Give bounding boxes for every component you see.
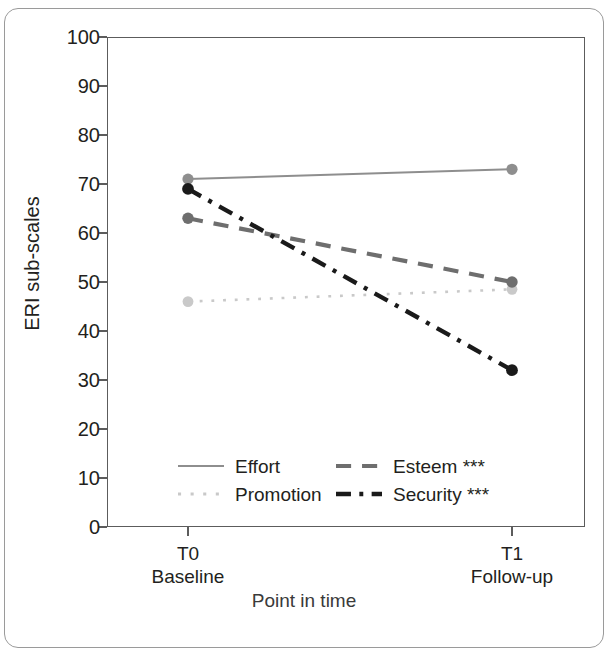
y-tick-mark xyxy=(99,330,107,331)
y-tick-label: 40 xyxy=(54,321,100,341)
y-tick-mark xyxy=(99,281,107,282)
legend-label: Promotion xyxy=(235,485,322,504)
legend-label: Effort xyxy=(235,457,280,476)
y-axis-title: ERI sub-scales xyxy=(21,169,44,359)
y-tick-mark xyxy=(99,428,107,429)
y-tick-mark xyxy=(99,85,107,86)
y-tick-mark xyxy=(99,134,107,135)
y-tick-mark xyxy=(99,183,107,184)
y-tick-mark xyxy=(99,526,107,527)
x-tick-label-sub: Baseline xyxy=(113,565,263,588)
legend-item-esteem: Esteem *** xyxy=(336,452,508,480)
y-tick-mark xyxy=(99,232,107,233)
legend-label: Esteem *** xyxy=(393,457,485,476)
y-tick-label: 20 xyxy=(54,419,100,439)
x-tick-label-sub: Follow-up xyxy=(437,565,587,588)
legend-swatch-icon xyxy=(336,459,382,473)
legend-item-security: Security *** xyxy=(336,480,508,508)
legend-label: Security *** xyxy=(393,485,489,504)
y-tick-label: 70 xyxy=(54,174,100,194)
y-tick-label: 30 xyxy=(54,370,100,390)
y-tick-label: 50 xyxy=(54,272,100,292)
x-tick-mark xyxy=(511,527,512,536)
y-axis-labels: 1009080706050403020100 xyxy=(44,0,100,611)
x-tick-label: T0Baseline xyxy=(113,542,263,588)
legend-item-effort: Effort xyxy=(178,452,336,480)
legend-swatch-icon xyxy=(178,487,224,501)
legend-swatch-icon xyxy=(336,487,382,501)
y-tick-mark xyxy=(99,477,107,478)
y-tick-label: 100 xyxy=(54,27,100,47)
y-tick-label: 90 xyxy=(54,76,100,96)
y-tick-label: 80 xyxy=(54,125,100,145)
x-tick-label-primary: T0 xyxy=(177,543,199,564)
legend-swatch-icon xyxy=(178,459,224,473)
y-tick-label: 10 xyxy=(54,468,100,488)
x-tick-label: T1Follow-up xyxy=(437,542,587,588)
y-tick-label: 0 xyxy=(54,517,100,537)
legend-item-promotion: Promotion xyxy=(178,480,336,508)
x-axis-title: Point in time xyxy=(0,590,608,612)
x-tick-mark xyxy=(187,527,188,536)
y-tick-mark xyxy=(99,36,107,37)
x-tick-label-primary: T1 xyxy=(501,543,523,564)
chart-legend: EffortEsteem ***PromotionSecurity *** xyxy=(178,452,508,508)
y-tick-mark xyxy=(99,379,107,380)
y-tick-label: 60 xyxy=(54,223,100,243)
